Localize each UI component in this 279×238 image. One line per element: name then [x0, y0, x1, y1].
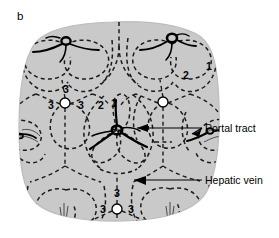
hepatic-vein-right	[158, 97, 168, 107]
zone-label: 2	[98, 99, 104, 111]
panel-label: b	[17, 10, 23, 22]
zone-label: 2	[183, 69, 189, 81]
zone-label: 3	[78, 99, 84, 111]
portal-tract-label: Portal tract	[205, 122, 256, 134]
zone-label: 1	[206, 60, 212, 72]
hepatic-vein-label: Hepatic vein	[205, 174, 263, 186]
zone-label: 3	[48, 99, 54, 111]
zone-label: 3	[63, 83, 69, 95]
hepatic-vein-left	[60, 98, 70, 108]
zone-label: 3	[114, 187, 120, 199]
hepatic-vein-bottom	[112, 204, 122, 214]
zone-label: 3	[128, 203, 134, 215]
zone-label: 1	[111, 97, 117, 109]
zone-label: 3	[100, 203, 106, 215]
liver-lobule-diagram: 1 2 3 3 3 2 1 3 3 3 Portal tract Hepatic…	[0, 0, 279, 238]
